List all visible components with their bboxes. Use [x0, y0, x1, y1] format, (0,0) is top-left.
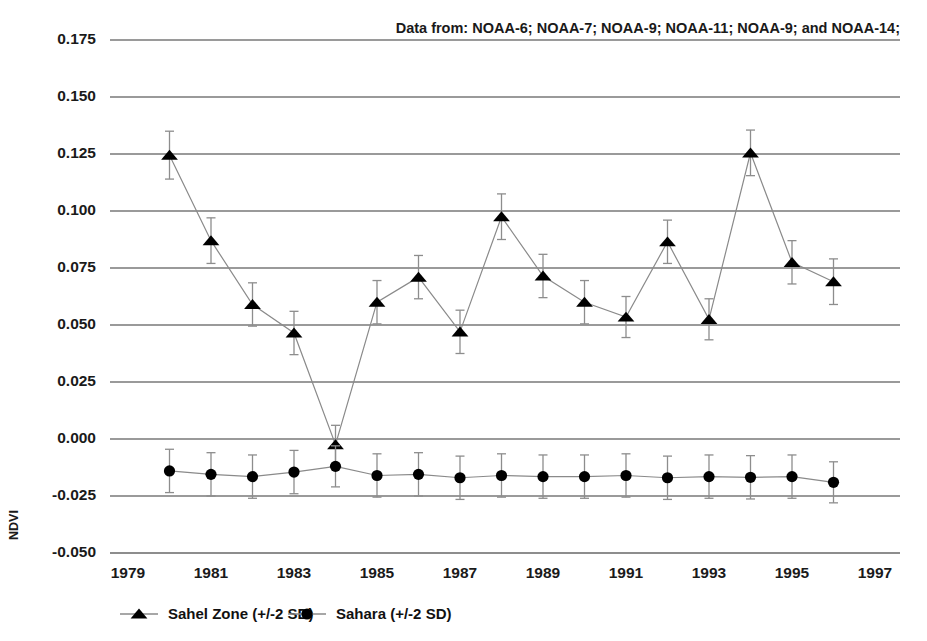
- data-point-triangle: [784, 257, 801, 267]
- data-point-circle: [288, 466, 299, 477]
- y-tick-label: 0.125: [57, 144, 96, 161]
- data-point-circle: [205, 469, 216, 480]
- legend-item-sahel-zone[interactable]: Sahel Zone (+/-2 SD): [120, 605, 313, 622]
- data-point-circle: [330, 461, 341, 472]
- chart-legend: Sahel Zone (+/-2 SD)Sahara (+/-2 SD): [120, 605, 451, 622]
- y-tick-label: 0.150: [57, 87, 96, 104]
- data-point-triangle: [825, 276, 842, 286]
- y-tick-label: 0.000: [57, 429, 96, 446]
- data-point-circle: [786, 471, 797, 482]
- data-point-triangle: [203, 235, 220, 245]
- x-tick-label: 1983: [277, 564, 312, 581]
- legend-marker-circle-icon: [301, 608, 312, 619]
- chart-canvas: 0.1750.1500.1250.1000.0750.0500.0250.000…: [0, 0, 927, 641]
- legend-label: Sahara (+/-2 SD): [336, 605, 451, 622]
- x-tick-label: 1989: [526, 564, 561, 581]
- x-tick-label: 1987: [443, 564, 477, 581]
- y-tick-label: 0.025: [57, 372, 96, 389]
- data-point-circle: [745, 472, 756, 483]
- chart-source-note: Data from: NOAA-6; NOAA-7; NOAA-9; NOAA-…: [396, 20, 900, 36]
- data-point-triangle: [659, 236, 676, 246]
- data-point-triangle: [452, 326, 469, 336]
- data-point-circle: [413, 469, 424, 480]
- y-tick-label: -0.050: [52, 543, 96, 560]
- y-tick-label: 0.175: [57, 30, 96, 47]
- x-tick-label: 1993: [692, 564, 727, 581]
- data-point-triangle: [493, 211, 510, 221]
- x-axis-tick-labels: 1979198119831985198719891991199319951997: [111, 564, 892, 581]
- data-point-circle: [371, 470, 382, 481]
- data-point-triangle: [535, 271, 552, 281]
- data-point-circle: [579, 471, 590, 482]
- data-point-circle: [703, 471, 714, 482]
- x-tick-label: 1995: [775, 564, 810, 581]
- data-point-circle: [247, 471, 258, 482]
- data-point-circle: [454, 472, 465, 483]
- series-sahara: [164, 446, 839, 503]
- y-tick-label: -0.025: [52, 486, 96, 503]
- data-point-triangle: [410, 272, 427, 282]
- data-point-triangle: [618, 312, 635, 322]
- data-point-circle: [164, 465, 175, 476]
- y-tick-label: 0.100: [57, 201, 96, 218]
- y-axis-title: NDVI: [7, 510, 21, 540]
- series-sahel-zone: [161, 130, 842, 464]
- x-tick-label: 1991: [609, 564, 644, 581]
- data-point-circle: [828, 477, 839, 488]
- y-axis-tick-labels: 0.1750.1500.1250.1000.0750.0500.0250.000…: [52, 30, 96, 560]
- y-tick-label: 0.050: [57, 315, 96, 332]
- x-tick-label: 1979: [111, 564, 146, 581]
- x-tick-label: 1981: [194, 564, 229, 581]
- x-tick-label: 1997: [858, 564, 892, 581]
- data-point-circle: [537, 471, 548, 482]
- data-point-triangle: [701, 314, 718, 324]
- data-point-circle: [496, 470, 507, 481]
- x-tick-label: 1985: [360, 564, 395, 581]
- y-tick-label: 0.075: [57, 258, 96, 275]
- data-point-triangle: [161, 150, 178, 160]
- data-point-triangle: [244, 299, 261, 309]
- data-series: [161, 130, 842, 503]
- data-point-circle: [662, 472, 673, 483]
- data-point-triangle: [742, 147, 759, 157]
- data-point-circle: [620, 470, 631, 481]
- ndvi-chart: 0.1750.1500.1250.1000.0750.0500.0250.000…: [0, 0, 927, 641]
